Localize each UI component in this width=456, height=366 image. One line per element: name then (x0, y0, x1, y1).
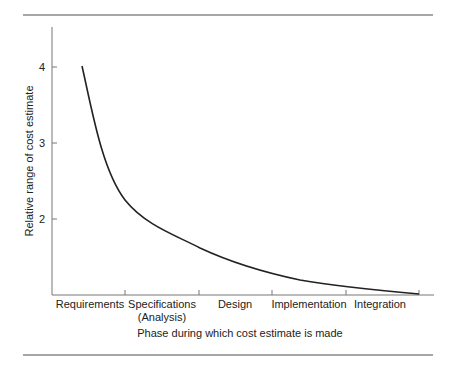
x-label-implementation: Implementation (271, 298, 346, 310)
x-ticks (125, 290, 419, 295)
y-tick-label-3: 3 (39, 137, 45, 149)
x-label-specifications: Specifications (128, 298, 196, 310)
y-tick-label-4: 4 (39, 61, 45, 73)
x-axis-title: Phase during which cost estimate is made (137, 327, 342, 339)
cost-range-curve (82, 66, 419, 294)
chart: 4 3 2 Requirements Specifications (Analy… (0, 0, 456, 366)
y-axis-title: Relative range of cost estimate (23, 85, 35, 236)
y-tick-label-2: 2 (39, 213, 45, 225)
x-label-requirements: Requirements (56, 298, 125, 310)
x-label-integration: Integration (354, 298, 406, 310)
x-label-design: Design (218, 298, 252, 310)
x-label-analysis: (Analysis) (138, 311, 186, 323)
y-ticks (52, 67, 57, 219)
